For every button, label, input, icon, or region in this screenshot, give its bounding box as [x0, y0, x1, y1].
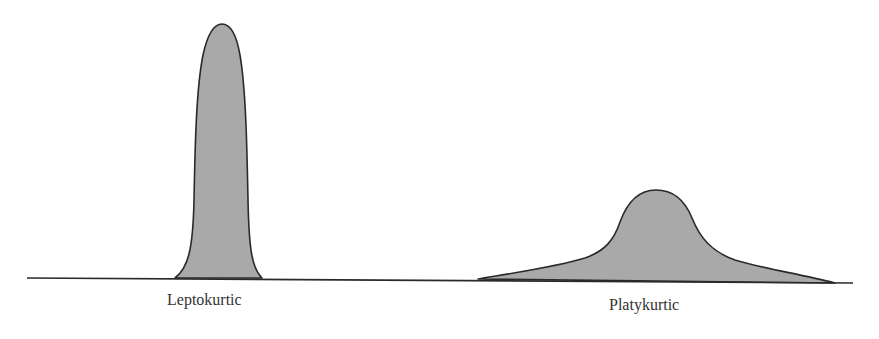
- platykurtic-label: Platykurtic: [609, 296, 679, 314]
- kurtosis-diagram: [0, 0, 879, 339]
- platykurtic-curve: [478, 190, 835, 283]
- leptokurtic-curve: [175, 24, 262, 278]
- leptokurtic-label: Leptokurtic: [167, 291, 242, 309]
